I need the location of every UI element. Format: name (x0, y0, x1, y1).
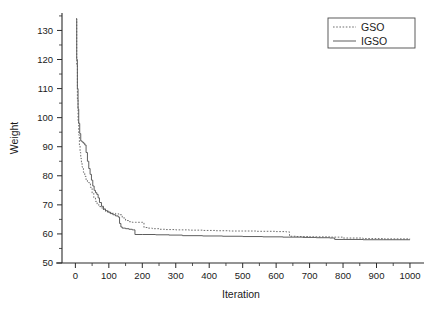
x-tick-label: 800 (335, 270, 351, 281)
y-tick-label: 60 (42, 228, 53, 239)
y-tick-label: 50 (42, 257, 53, 268)
line-chart: 01002003004005006007008009001000 5060708… (0, 0, 441, 312)
y-tick-label: 70 (42, 199, 53, 210)
x-tick-label: 100 (101, 270, 117, 281)
x-tick-label: 900 (369, 270, 385, 281)
chart-figure: 01002003004005006007008009001000 5060708… (0, 0, 441, 312)
x-axis-title: Iteration (222, 288, 260, 300)
legend-label-igso: IGSO (361, 35, 387, 47)
y-tick-label: 110 (38, 83, 53, 94)
x-tick-label: 400 (201, 270, 217, 281)
y-tick-label: 100 (37, 112, 53, 123)
legend-label-gso: GSO (361, 21, 384, 33)
x-tick-label: 0 (73, 270, 78, 281)
y-tick-label: 80 (42, 170, 53, 181)
x-tick-label: 700 (302, 270, 318, 281)
x-tick-label: 300 (168, 270, 184, 281)
x-tick-label: 1000 (399, 270, 420, 281)
x-tick-label: 500 (235, 270, 251, 281)
x-tick-label: 200 (134, 270, 150, 281)
y-tick-label: 130 (37, 25, 53, 36)
y-tick-label: 120 (37, 54, 53, 65)
x-tick-label: 600 (268, 270, 284, 281)
y-axis-title: Weight (8, 122, 20, 155)
chart-legend: GSOIGSO (328, 18, 415, 48)
y-tick-label: 90 (42, 141, 53, 152)
